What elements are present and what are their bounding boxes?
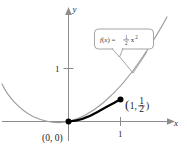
paren-open: ( [125, 97, 129, 112]
paren-comma: , [135, 101, 137, 111]
callout-fraction-denominator: 2 [125, 40, 128, 46]
y-tick-label-1: 1 [55, 64, 60, 74]
parabola-figure: f(x)= 1 2 x 2 x y 1 1 (0, 0) (1, 1 2 ) [0, 0, 187, 151]
x-axis-label: x [173, 118, 178, 128]
point-label-origin: (0, 0) [42, 133, 63, 144]
callout-exponent: 2 [135, 34, 138, 40]
callout-formula: f(x)= [100, 36, 116, 44]
point-marker-origin [66, 119, 72, 125]
paren-close: ) [146, 101, 149, 112]
y-axis-arrow-icon [65, 7, 72, 15]
axes-group [2, 7, 175, 141]
y-axis-label: y [72, 4, 77, 14]
point-label-one-half-text: (1, [125, 97, 137, 112]
x-tick-label-1: 1 [118, 129, 123, 139]
callout-tail [112, 49, 123, 57]
callout-fraction-numerator: 1 [125, 34, 128, 40]
ticks-group [64, 69, 121, 127]
point-marker-one-half [118, 97, 124, 103]
parabola-curve-highlight [69, 100, 121, 122]
point-label-one-half: (1, 1 2 ) [125, 96, 149, 114]
point-label-frac-den: 2 [139, 104, 144, 114]
callout-equals: = [112, 36, 116, 44]
callout-variable: x [131, 36, 135, 44]
figure-container: f(x)= 1 2 x 2 x y 1 1 (0, 0) (1, 1 2 ) [0, 0, 187, 151]
function-callout: f(x)= 1 2 x 2 [95, 29, 154, 73]
